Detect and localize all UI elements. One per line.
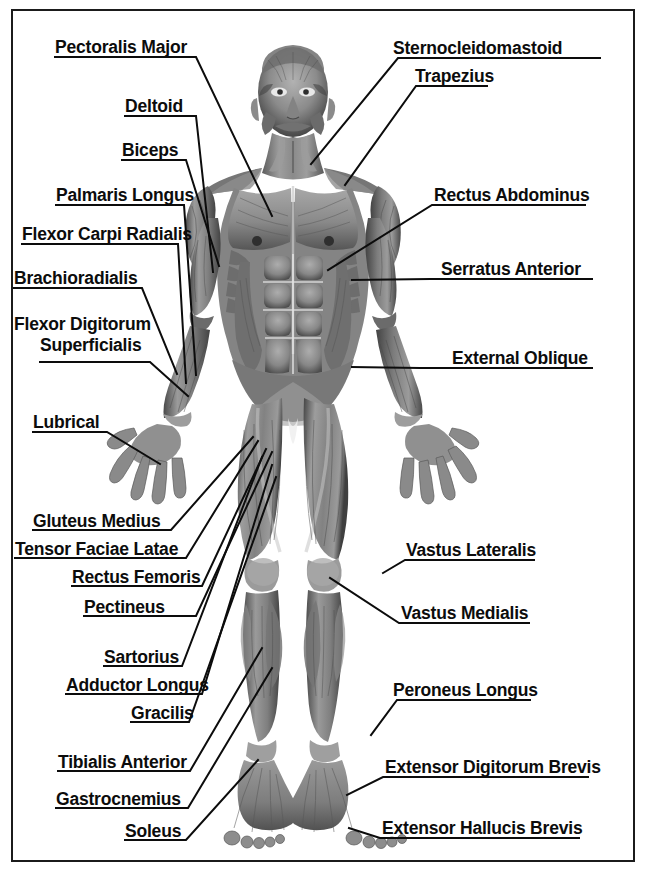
label-external-oblique[interactable]: External Oblique xyxy=(452,348,588,368)
label-adductor-longus[interactable]: Adductor Longus xyxy=(66,675,209,695)
label-flexor-carpi-radialis[interactable]: Flexor Carpi Radialis xyxy=(22,224,192,244)
leg-region-right xyxy=(289,398,407,849)
label-soleus[interactable]: Soleus xyxy=(125,821,181,841)
label-extensor-hallucis-brevis[interactable]: Extensor Hallucis Brevis xyxy=(382,818,582,838)
label-trapezius[interactable]: Trapezius xyxy=(415,66,494,86)
label-rectus-abdominus[interactable]: Rectus Abdominus xyxy=(434,185,590,205)
anatomy-diagram-page: Pectoralis Major Deltoid Biceps Palmaris… xyxy=(0,0,647,871)
label-deltoid[interactable]: Deltoid xyxy=(125,96,183,116)
label-pectoralis-major[interactable]: Pectoralis Major xyxy=(55,37,187,57)
label-sternocleidomastoid[interactable]: Sternocleidomastoid xyxy=(393,38,562,58)
label-gastrocnemius[interactable]: Gastrocnemius xyxy=(56,789,181,809)
torso-region xyxy=(217,186,369,444)
label-extensor-digitorum-brevis[interactable]: Extensor Digitorum Brevis xyxy=(385,757,601,777)
leg-region-left xyxy=(224,398,297,849)
label-rectus-femoris[interactable]: Rectus Femoris xyxy=(72,567,201,587)
label-flexor-digitorum[interactable]: Flexor Digitorum xyxy=(14,314,151,334)
label-lubrical[interactable]: Lubrical xyxy=(33,412,99,432)
label-gluteus-medius[interactable]: Gluteus Medius xyxy=(33,511,161,531)
head-region xyxy=(251,45,335,140)
label-peroneus-longus[interactable]: Peroneus Longus xyxy=(393,680,538,700)
neck-region xyxy=(262,133,324,180)
label-gracilis[interactable]: Gracilis xyxy=(131,703,194,723)
label-tibialis-anterior[interactable]: Tibialis Anterior xyxy=(58,752,187,772)
label-superficialis[interactable]: Superficialis xyxy=(40,335,141,355)
label-brachioradialis[interactable]: Brachioradialis xyxy=(14,268,137,288)
label-sartorius[interactable]: Sartorius xyxy=(104,647,179,667)
arm-region-left xyxy=(107,218,220,504)
label-vastus-lateralis[interactable]: Vastus Lateralis xyxy=(406,540,536,560)
label-tensor-faciae-latae[interactable]: Tensor Faciae Latae xyxy=(15,539,178,559)
label-biceps[interactable]: Biceps xyxy=(122,140,178,160)
label-vastus-medialis[interactable]: Vastus Medialis xyxy=(401,603,528,623)
label-pectineus[interactable]: Pectineus xyxy=(84,597,165,617)
label-serratus-anterior[interactable]: Serratus Anterior xyxy=(441,259,581,279)
muscular-figure-illustration xyxy=(0,0,647,871)
label-palmaris-longus[interactable]: Palmaris Longus xyxy=(56,185,194,205)
